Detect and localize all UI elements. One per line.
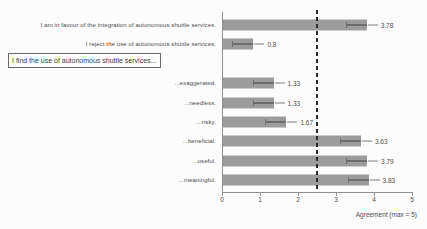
group-label-text: I find the use of autonomous shuttle ser… [12, 57, 156, 64]
x-tick-label: 1 [258, 196, 262, 203]
value-leader-line [370, 180, 380, 181]
value-leader-line [254, 44, 264, 45]
error-whisker-cap [265, 119, 266, 125]
error-whisker [253, 102, 274, 104]
x-tick-label: 0 [220, 196, 224, 203]
category-label: ...needless. [184, 100, 216, 106]
value-label: 1.33 [288, 80, 301, 87]
error-whisker-cap [340, 138, 341, 144]
category-label: ...exaggerated. [174, 80, 216, 86]
category-label: ...risky. [197, 119, 216, 125]
value-label: 1.33 [288, 99, 301, 106]
value-label: 0.8 [267, 41, 276, 48]
value-leader-line [275, 102, 285, 103]
x-axis-title: Agreement (max = 5) [356, 211, 417, 218]
error-whisker [348, 179, 369, 181]
category-label: ...meaningful. [179, 177, 216, 183]
category-label: I am in favour of the integration of aut… [41, 22, 216, 28]
error-whisker-cap [346, 22, 347, 28]
value-leader-line [275, 83, 285, 84]
category-label: I reject the use of autonomous shuttle s… [86, 41, 216, 47]
x-tick-label: 4 [372, 196, 376, 203]
error-whisker [265, 121, 286, 123]
value-leader-line [368, 25, 378, 26]
error-whisker-cap [346, 158, 347, 164]
category-label: ...useful. [192, 158, 216, 164]
bar-chart: I am in favour of the integration of aut… [0, 0, 427, 229]
value-label: 1.67 [300, 118, 313, 125]
error-whisker-cap [253, 80, 254, 86]
value-label: 3.79 [381, 157, 394, 164]
value-label: 3.78 [381, 22, 394, 29]
value-label: 3.83 [383, 177, 396, 184]
error-whisker [346, 24, 367, 26]
reference-line [316, 10, 318, 192]
error-whisker [232, 43, 253, 45]
error-whisker [253, 82, 274, 84]
plot-area: I am in favour of the integration of aut… [0, 0, 427, 229]
value-leader-line [368, 160, 378, 161]
error-whisker-cap [253, 100, 254, 106]
error-whisker-cap [348, 177, 349, 183]
value-leader-line [287, 121, 297, 122]
value-leader-line [362, 141, 372, 142]
category-label: ...beneficial. [183, 138, 216, 144]
x-tick-label: 2 [296, 196, 300, 203]
error-whisker-cap [232, 41, 233, 47]
group-label-box: I find the use of autonomous shuttle ser… [8, 53, 161, 68]
error-whisker [346, 160, 367, 162]
error-whisker [340, 140, 361, 142]
x-tick-label: 3 [334, 196, 338, 203]
x-axis-line [222, 192, 413, 193]
x-tick-label: 5 [410, 196, 414, 203]
value-label: 3.63 [375, 138, 388, 145]
